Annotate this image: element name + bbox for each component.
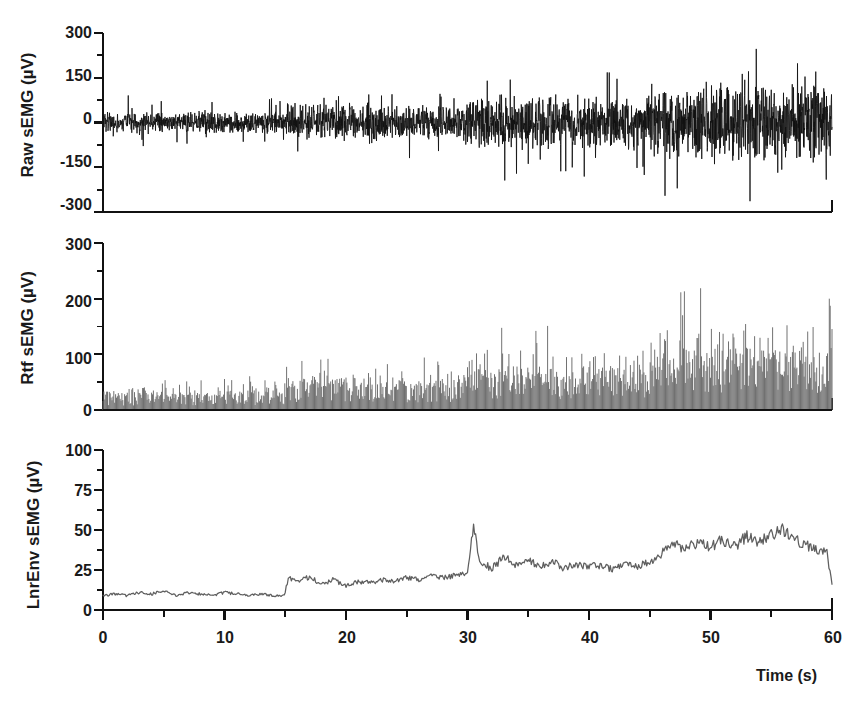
panel-envelope-semg: LnrEnv sEMG (µV) 100 75 50 25 0 0 10 20 …: [0, 425, 861, 701]
envelope-semg-plot: [0, 425, 861, 701]
rectified-semg-plot: [0, 230, 861, 425]
xtick-0: 0: [83, 630, 123, 646]
xtick-50: 50: [691, 630, 731, 646]
semg-processing-figure: Raw sEMG (µV) 300 150 0 -150 -300 Rtf sE…: [0, 0, 861, 701]
envelope-semg-trace: [103, 524, 832, 597]
panel-raw-semg: Raw sEMG (µV) 300 150 0 -150 -300: [0, 0, 861, 230]
xtick-10: 10: [205, 630, 245, 646]
xaxis-title: Time (s): [756, 667, 817, 685]
panel-rectified-semg: Rtf sEMG (µV) 300 200 100 0: [0, 230, 861, 425]
rectified-semg-bars: [103, 288, 832, 410]
raw-semg-plot: [0, 0, 861, 230]
xtick-60: 60: [813, 630, 853, 646]
xtick-30: 30: [448, 630, 488, 646]
raw-semg-trace: [103, 49, 832, 201]
xtick-20: 20: [327, 630, 367, 646]
xtick-40: 40: [570, 630, 610, 646]
